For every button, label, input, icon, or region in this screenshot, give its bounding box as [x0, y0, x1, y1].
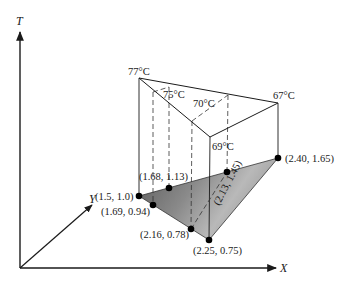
label-75c: 75°C — [163, 89, 185, 100]
label-67c: 67°C — [273, 90, 295, 101]
label-69c: 69°C — [212, 141, 234, 152]
t-axis-label: T — [16, 14, 24, 28]
point-1-68-1-13 — [166, 185, 173, 192]
label-p2: (1.69, 0.94) — [101, 206, 150, 218]
label-70c: 70°C — [193, 98, 215, 109]
label-p1: (1.5, 1.0) — [95, 191, 134, 203]
x-axis-label: X — [279, 261, 288, 275]
point-2-25-0-75 — [206, 237, 213, 244]
label-p7: (2.40, 1.65) — [285, 153, 334, 165]
label-p5: (2.25, 0.75) — [193, 245, 242, 257]
point-1-69-0-94 — [150, 202, 157, 209]
temperature-diagram: T X Y 77°C 75°C 70°C 69°C 67°C — [0, 0, 346, 285]
label-77c: 77°C — [128, 66, 150, 77]
point-1-5-1-0 — [136, 193, 143, 200]
label-p4: (2.16, 0.78) — [140, 229, 189, 241]
y-axis — [20, 205, 92, 268]
point-2-40-1-65 — [275, 155, 282, 162]
label-p3: (1.68, 1.13) — [139, 171, 188, 183]
